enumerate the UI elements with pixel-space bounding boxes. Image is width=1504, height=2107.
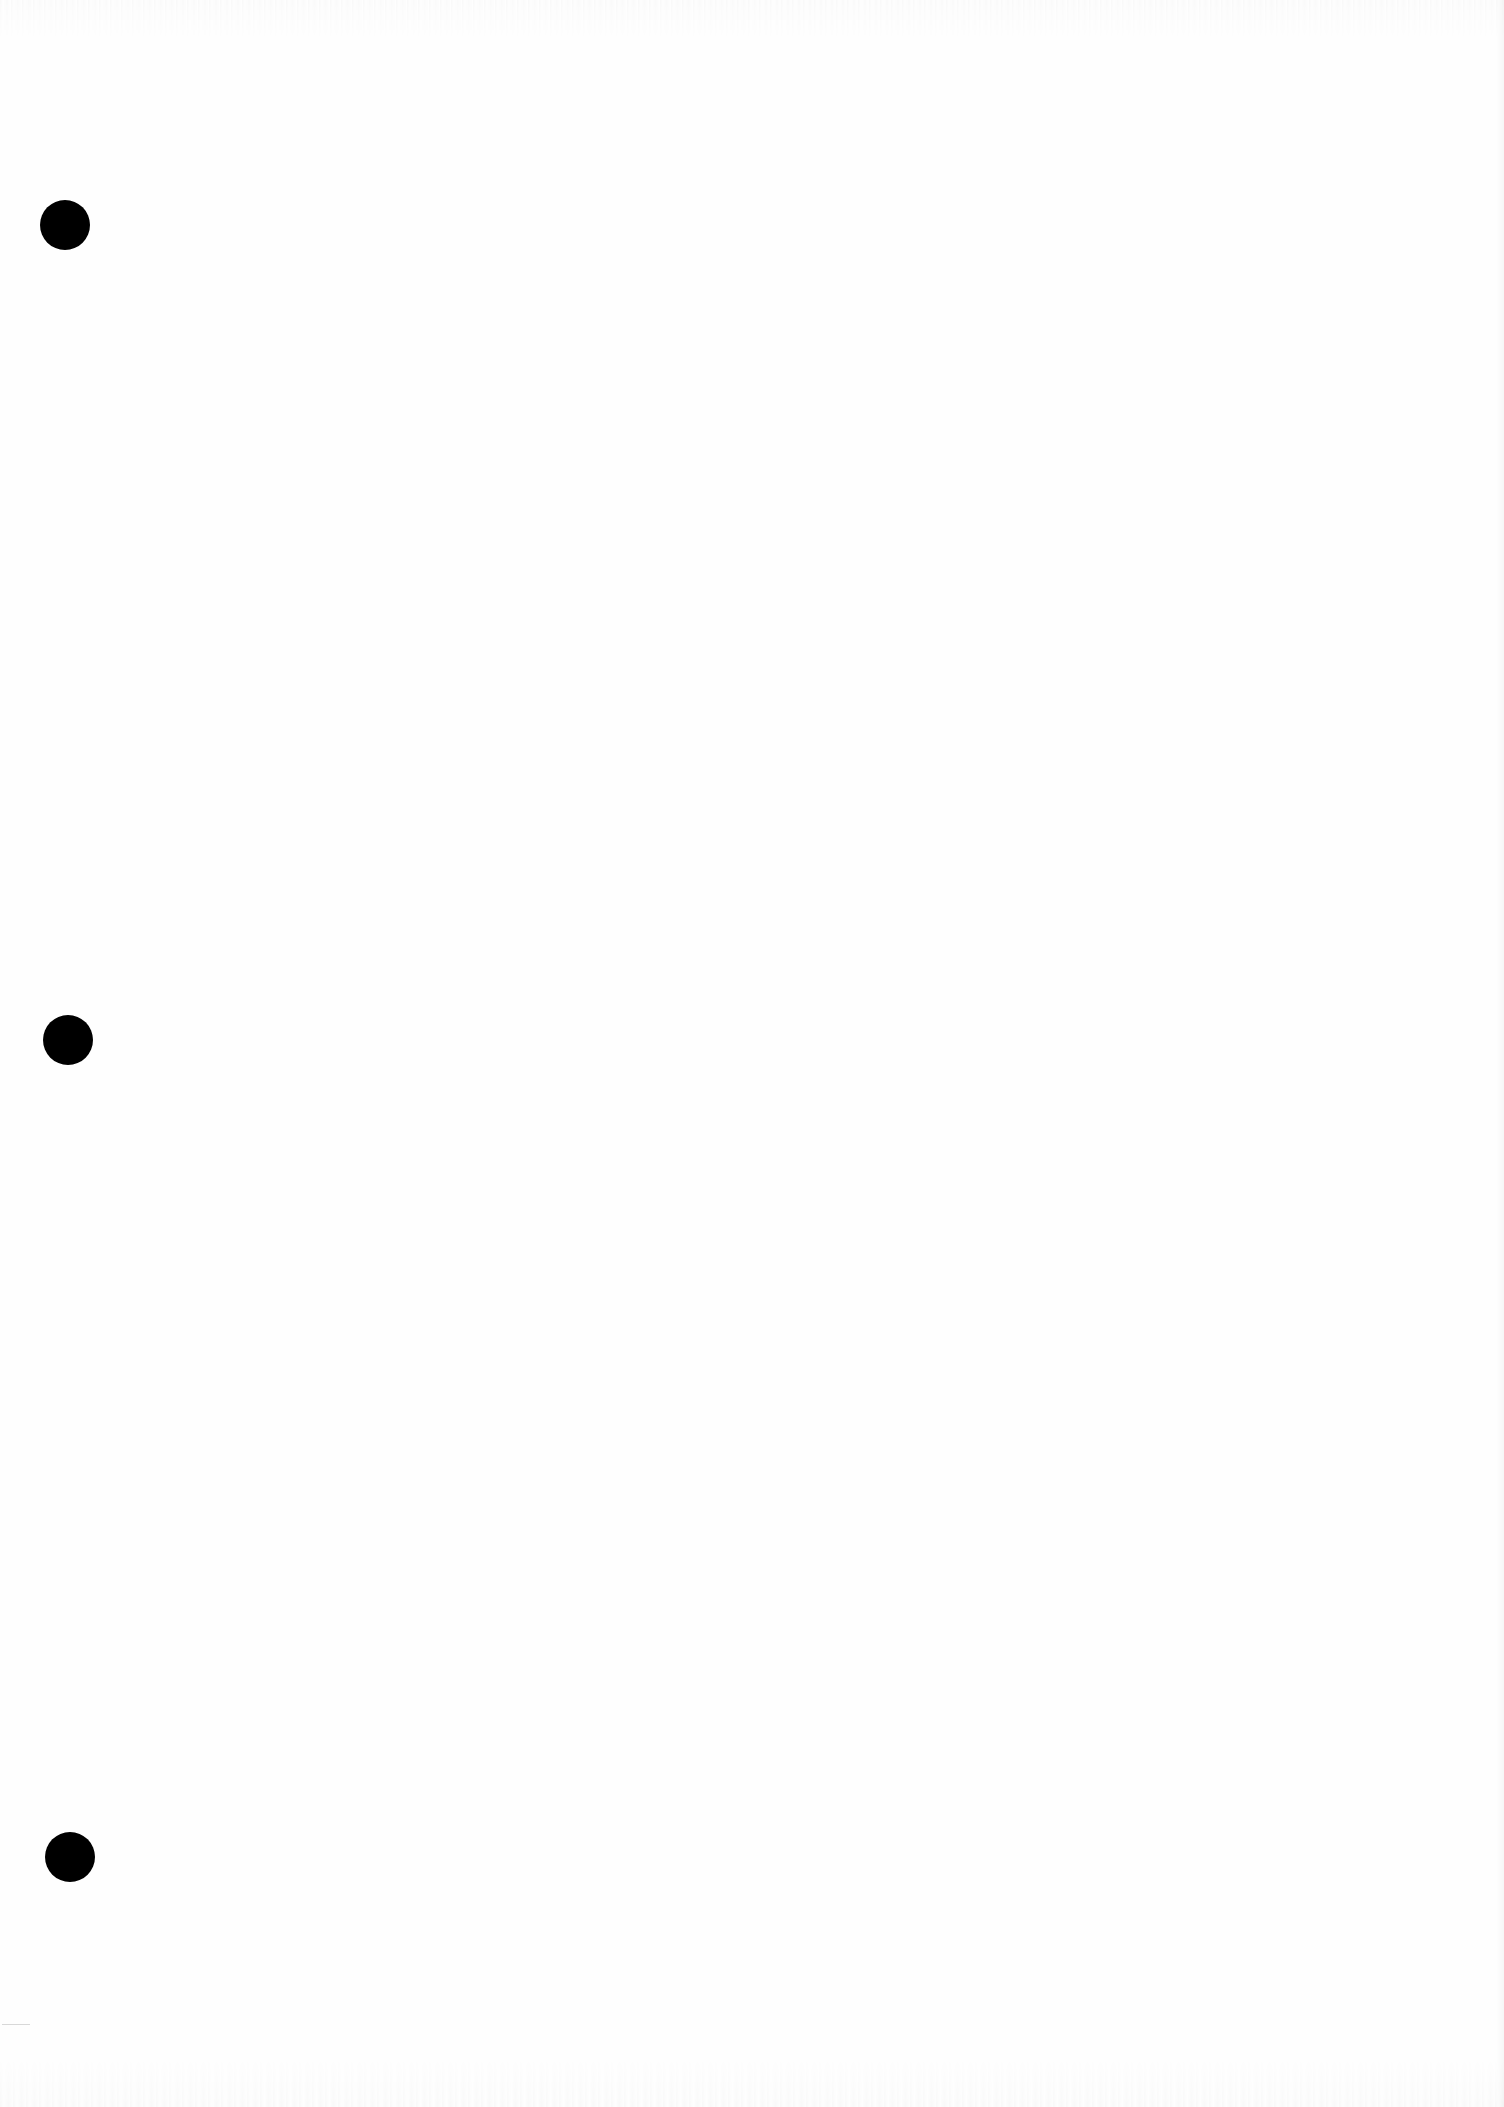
scan-noise-top	[0, 0, 1504, 40]
blank-page	[0, 0, 1504, 2107]
hole-punch-middle-hole	[43, 1015, 93, 1065]
scan-noise-bottom	[0, 2057, 1504, 2107]
hole-punch-bottom-hole	[45, 1832, 95, 1882]
margin-mark	[2, 2024, 30, 2025]
scan-shadow-right	[1496, 0, 1504, 2107]
hole-punch-top-hole	[40, 200, 90, 250]
